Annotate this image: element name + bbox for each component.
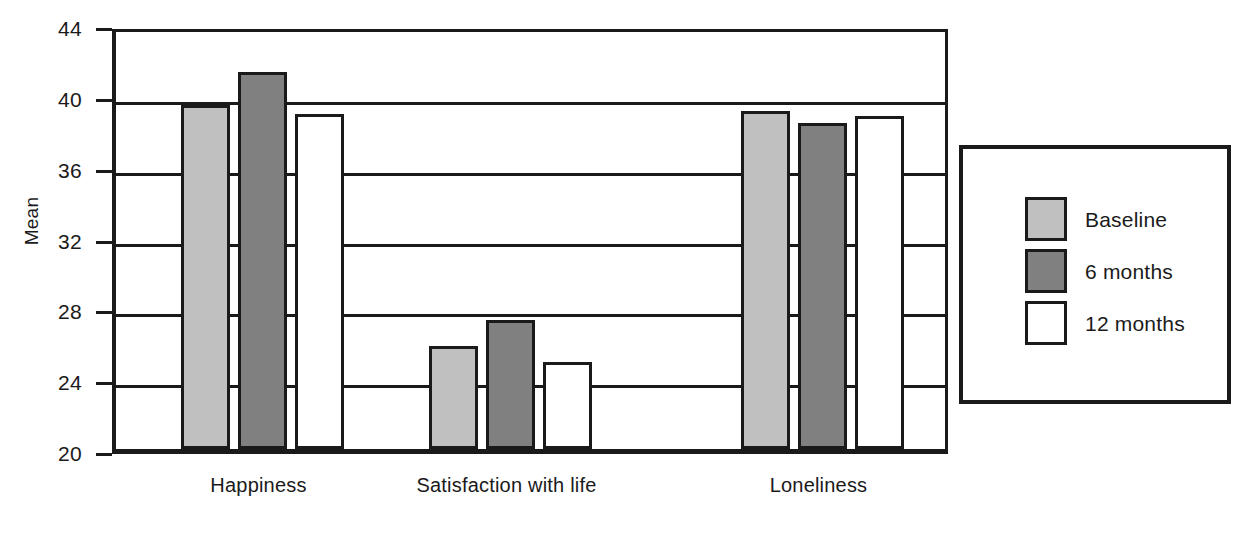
bar-satisfaction-with-life-6-months (486, 320, 535, 449)
y-tick-mark-20 (96, 453, 112, 456)
y-axis-tick-marks (96, 0, 112, 534)
y-tick-label-32: 32 (36, 231, 82, 252)
y-tick-label-40: 40 (36, 89, 82, 110)
y-tick-label-24: 24 (36, 372, 82, 393)
legend-items: Baseline6 months12 months (1025, 193, 1225, 349)
y-tick-label-20: 20 (36, 443, 82, 464)
legend-swatch-12-months (1025, 301, 1067, 345)
legend-item-baseline: Baseline (1025, 193, 1225, 245)
bar-loneliness-12-months (855, 116, 904, 449)
legend-item-12-months: 12 months (1025, 297, 1225, 349)
plot-area (112, 29, 948, 454)
bar-loneliness-baseline (741, 111, 790, 449)
legend-swatch-6-months (1025, 249, 1067, 293)
y-tick-label-44: 44 (36, 18, 82, 39)
bars-layer (116, 32, 945, 449)
x-axis-tick-labels: HappinessSatisfaction with lifeLonelines… (112, 473, 948, 513)
x-tick-label-satisfaction-with-life: Satisfaction with life (416, 473, 596, 497)
bar-chart-figure: Mean 44403632282420 HappinessSatisfactio… (0, 0, 1248, 534)
y-tick-label-28: 28 (36, 301, 82, 322)
y-tick-mark-36 (96, 170, 112, 173)
y-tick-mark-40 (96, 99, 112, 102)
bar-happiness-baseline (181, 105, 230, 449)
y-tick-mark-44 (96, 28, 112, 31)
y-tick-label-36: 36 (36, 160, 82, 181)
legend-label-12-months: 12 months (1085, 313, 1185, 334)
legend-swatch-baseline (1025, 197, 1067, 241)
bar-loneliness-6-months (798, 123, 847, 449)
legend-label-6-months: 6 months (1085, 261, 1173, 282)
bar-satisfaction-with-life-12-months (543, 362, 592, 449)
legend-box: Baseline6 months12 months (959, 145, 1231, 404)
x-tick-label-loneliness: Loneliness (770, 473, 868, 497)
x-tick-label-happiness: Happiness (210, 473, 306, 497)
bar-satisfaction-with-life-baseline (429, 346, 478, 449)
legend-item-6-months: 6 months (1025, 245, 1225, 297)
bar-happiness-12-months (295, 114, 344, 449)
bar-happiness-6-months (238, 72, 287, 449)
legend-label-baseline: Baseline (1085, 209, 1167, 230)
y-tick-mark-32 (96, 241, 112, 244)
y-tick-mark-28 (96, 311, 112, 314)
y-axis-tick-labels: 44403632282420 (36, 0, 82, 534)
y-tick-mark-24 (96, 382, 112, 385)
